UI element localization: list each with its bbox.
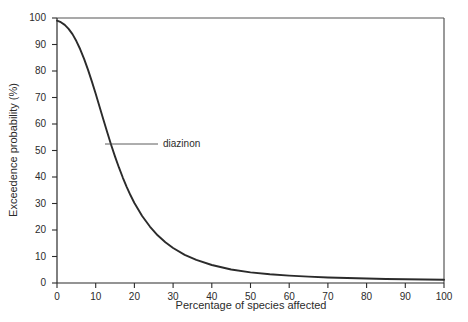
annotation-label-diazinon: diazinon [163, 138, 200, 149]
x-tick-label-10: 10 [90, 292, 101, 302]
x-tick-label-100: 100 [436, 292, 453, 302]
axis-frame [57, 18, 444, 283]
chart-figure: 100 90 80 70 60 50 40 30 20 10 0 0 10 20… [0, 0, 468, 322]
x-axis-label: Percentage of species affected [176, 299, 327, 311]
x-tick-marks [57, 283, 444, 288]
x-tick-label-0: 0 [54, 292, 60, 302]
y-tick-label-20: 20 [14, 225, 46, 235]
x-tick-label-90: 90 [400, 292, 411, 302]
x-tick-label-80: 80 [361, 292, 372, 302]
y-tick-label-100: 100 [14, 13, 46, 23]
x-tick-label-20: 20 [129, 292, 140, 302]
y-tick-label-80: 80 [14, 66, 46, 76]
series-line-diazinon [57, 21, 444, 280]
y-tick-label-0: 0 [14, 278, 46, 288]
y-tick-label-10: 10 [14, 252, 46, 262]
y-tick-marks [52, 18, 57, 283]
y-tick-label-90: 90 [14, 40, 46, 50]
plot-canvas [0, 0, 468, 322]
y-axis-label: Exceedence probability (%) [7, 83, 19, 217]
